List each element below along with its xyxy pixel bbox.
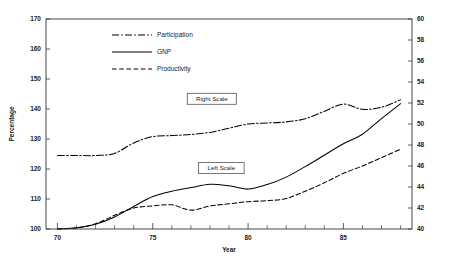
annotation-label: Right Scale [196, 95, 228, 102]
y-left-ticklabel: 130 [30, 135, 41, 142]
y-left-ticklabel: 140 [30, 105, 41, 112]
y-right-ticklabel: 46 [417, 162, 425, 169]
x-ticklabel: 80 [244, 234, 252, 241]
y-right-ticklabel: 52 [417, 99, 425, 106]
y-right-ticklabel: 54 [417, 78, 425, 85]
x-ticklabel: 75 [149, 234, 157, 241]
y-right-ticklabel: 42 [417, 204, 425, 211]
line-chart: 100110120130140150160170 404244464850525… [0, 0, 454, 261]
y-left-ticklabel: 160 [30, 45, 41, 52]
y-right-ticklabel: 44 [417, 183, 425, 190]
chart-container: 100110120130140150160170 404244464850525… [0, 0, 454, 261]
y-left-ticklabel: 120 [30, 165, 41, 172]
y-axis-label: Percentage [8, 106, 16, 141]
legend-label-gnp: GNP [157, 48, 171, 55]
legend-label-participation: Participation [157, 31, 193, 39]
y-right-ticklabel: 48 [417, 141, 425, 148]
y-left-ticklabel: 170 [30, 15, 41, 22]
y-right-ticklabel: 50 [417, 120, 425, 127]
x-ticklabel: 70 [54, 234, 62, 241]
y-left-ticklabel: 110 [31, 195, 42, 202]
annotation-label: Left Scale [208, 164, 236, 171]
y-right-ticklabel: 60 [417, 15, 425, 22]
x-ticklabel: 85 [340, 234, 348, 241]
y-right-ticklabel: 58 [417, 36, 425, 43]
y-left-ticklabel: 100 [30, 225, 41, 232]
y-right-ticklabel: 56 [417, 57, 425, 64]
y-right-ticklabel: 40 [417, 225, 425, 232]
y-left-ticklabel: 150 [30, 75, 41, 82]
plot-background [46, 19, 412, 229]
legend-label-productivity: Productivity [157, 65, 191, 73]
x-axis-label: Year [222, 246, 236, 253]
